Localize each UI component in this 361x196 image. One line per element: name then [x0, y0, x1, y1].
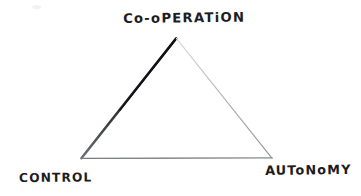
autonomy-label: AUToNoMY — [265, 164, 352, 178]
cooperation-label: Co-oPERATiON — [123, 11, 245, 26]
diagram-canvas: Co-oPERATiON CONTROL AUToNoMY — [0, 0, 361, 196]
control-to-cooperation-edge-weight — [120, 39, 176, 110]
cooperation-to-autonomy-edge — [176, 38, 272, 158]
control-label: CONTROL — [19, 171, 92, 184]
control-to-autonomy-edge — [81, 158, 272, 159]
